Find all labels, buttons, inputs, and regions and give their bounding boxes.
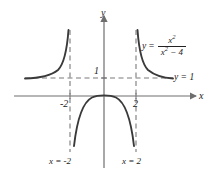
horizontal-asymptote-label: y = 1 [174, 73, 194, 83]
plot-canvas [0, 0, 211, 178]
equation-denominator: x2 − 4 [158, 47, 186, 57]
curve-left-branch [25, 30, 69, 79]
x-tick-label-positive-two: 2 [133, 99, 138, 109]
x-axis-label: x [199, 91, 203, 101]
y-axis-label: y [101, 8, 105, 18]
x-tick-label-negative-two: -2 [60, 99, 68, 109]
equation-fraction: x2 x2 − 4 [158, 36, 186, 57]
y-tick-label-one: 1 [94, 66, 99, 76]
equation-left-side: y [142, 42, 146, 52]
denominator-exponent: 2 [165, 45, 168, 52]
numerator-exponent: 2 [172, 33, 175, 40]
vertical-asymptote-left-label: x = -2 [49, 157, 71, 166]
function-graph-figure: y x 1 -2 2 y = 1 x = -2 x = 2 y = x2 x2 … [0, 0, 211, 178]
function-equation-label: y = x2 x2 − 4 [142, 36, 186, 57]
vertical-asymptote-right-label: x = 2 [122, 157, 141, 166]
denominator-rest: − 4 [170, 47, 183, 57]
equation-equals-sign: = [148, 42, 154, 52]
